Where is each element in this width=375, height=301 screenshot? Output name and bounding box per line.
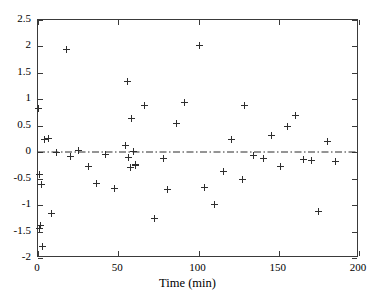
data-point-marker [220,168,227,175]
data-point-marker [128,115,135,122]
x-tick [359,251,360,256]
data-point-marker [53,149,60,156]
data-point-marker [268,132,275,139]
data-point-marker [85,163,92,170]
data-point-marker [75,147,82,154]
x-tick-label: 150 [258,262,298,273]
x-tick-label: 0 [17,262,57,273]
data-point-marker [277,163,284,170]
data-point-marker [132,161,139,168]
data-point-marker [130,148,137,155]
data-point-marker [228,136,235,143]
data-point-marker [250,152,257,159]
data-point-marker [67,153,74,160]
data-point-marker [260,155,267,162]
data-point-marker [132,162,139,169]
data-point-marker [201,184,208,191]
y-tick [38,258,43,259]
data-points-layer [38,20,357,256]
data-point-marker [35,105,42,112]
data-point-marker [239,176,246,183]
data-point-marker [151,215,158,222]
data-point-marker [300,156,307,163]
data-point-marker [45,135,52,142]
x-tick-label: 50 [97,262,137,273]
data-point-marker [181,99,188,106]
data-point-marker [63,46,70,53]
data-point-marker [36,171,43,178]
scatter-plot-figure: -2-1.5-1-0.500.511.522.5 050100150200 Ti… [0,0,375,301]
data-point-marker [36,225,43,232]
data-point-marker [93,180,100,187]
data-point-marker [173,120,180,127]
data-point-marker [102,151,109,158]
data-point-marker [111,185,118,192]
x-tick-top [359,20,360,25]
data-point-marker [41,136,48,143]
data-point-marker [196,42,203,49]
data-point-marker [122,142,129,149]
data-point-marker [324,138,331,145]
data-point-marker [141,102,148,109]
data-point-marker [48,210,55,217]
data-point-marker [37,222,44,229]
data-point-marker [211,201,218,208]
plot-area [37,19,358,257]
data-point-marker [284,123,291,130]
data-point-marker [125,154,132,161]
y-tick-right [352,258,357,259]
x-axis-title: Time (min) [0,277,375,290]
data-point-marker [164,186,171,193]
data-point-marker [39,243,46,250]
data-point-marker [38,181,45,188]
x-tick-label: 100 [178,262,218,273]
x-tick-label: 200 [338,262,375,273]
data-point-marker [160,155,167,162]
data-point-marker [124,78,131,85]
data-point-marker [315,208,322,215]
data-point-marker [332,158,339,165]
data-point-marker [127,164,134,171]
data-point-marker [241,102,248,109]
data-point-marker [308,157,315,164]
data-point-marker [292,112,299,119]
